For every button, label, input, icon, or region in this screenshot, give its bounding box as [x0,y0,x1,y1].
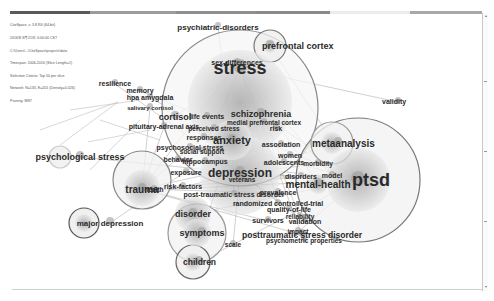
network-canvas[interactable]: stressptsddepressionanxietytraumamental-… [0,0,494,301]
node-label[interactable]: risk [270,125,283,132]
node-label[interactable]: veterans [229,176,256,183]
node-label[interactable]: disorder [175,209,212,219]
node-label[interactable]: psychological stress [35,152,124,162]
node-label[interactable]: ptsd [352,170,390,190]
node-label[interactable]: hippocampus [182,158,228,166]
bottom-border [12,289,482,290]
node-label[interactable]: validation [289,218,322,225]
node-label[interactable]: scale [225,241,242,248]
edge [60,102,118,145]
node-label[interactable]: health [144,186,163,193]
node-label[interactable]: life events [190,113,224,120]
node-label[interactable]: survivors [252,217,284,224]
node-label[interactable]: association [262,141,301,148]
node-label[interactable]: resilience [99,80,131,87]
node-label[interactable]: psychiatric-disorders [177,23,259,32]
node-label[interactable]: children [183,257,216,267]
node-label[interactable]: responses [186,134,221,142]
node-label[interactable]: disorders [285,173,317,180]
node-label[interactable]: major depression [77,219,144,228]
edge [88,130,150,142]
node-label[interactable]: validity [382,98,406,106]
scroll-tick [484,151,487,152]
node-label[interactable]: risk-factors [164,183,202,190]
node-label[interactable]: prefrontal cortex [262,41,334,51]
node-label[interactable]: hpa amygdala [127,94,174,102]
node-label[interactable]: salivary cortisol [127,105,173,111]
scroll-tick [484,221,487,222]
scroll-down-arrow-icon[interactable]: ▾ [483,285,488,289]
node-label[interactable]: prevalence [260,189,297,197]
node-label[interactable]: model [322,172,343,179]
node-label[interactable]: women [277,152,302,159]
scroll-up-arrow-icon[interactable]: ▴ [483,14,488,18]
node-label[interactable]: social support [180,148,225,156]
node-label[interactable]: schizophrenia [231,109,293,119]
scroll-tick [484,81,487,82]
node-label[interactable]: perceived stress [188,125,240,133]
node-label[interactable]: psychometric properties [266,237,342,245]
node-label[interactable]: morbidity [303,160,333,168]
node-label[interactable]: symptoms [179,228,224,238]
edge [40,102,118,130]
vertical-scrollbar[interactable]: ▴ ▾ [482,13,488,291]
node-label[interactable]: sex-differences [211,59,262,66]
node-label[interactable]: metaanalysis [312,138,375,149]
node-label[interactable]: exposure [170,169,201,177]
node-label[interactable]: adolescents [264,159,305,166]
node-label[interactable]: cortisol [159,112,192,122]
